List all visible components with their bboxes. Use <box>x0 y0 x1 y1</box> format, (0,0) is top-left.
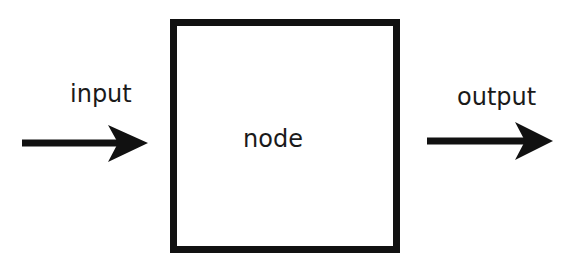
input-label: input <box>70 82 132 106</box>
output-label: output <box>457 85 536 109</box>
input-arrow-icon <box>22 125 148 162</box>
node-io-diagram: input node output <box>0 0 574 265</box>
node-label: node <box>243 127 303 151</box>
output-arrow-icon <box>427 122 553 160</box>
